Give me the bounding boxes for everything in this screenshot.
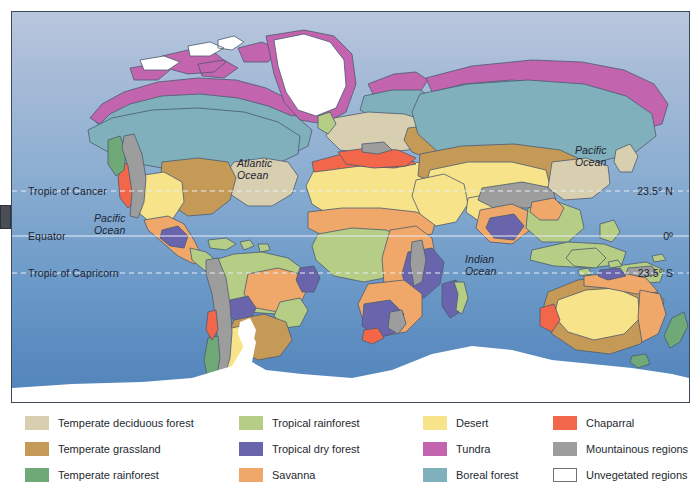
legend-item-tropical-dry-forest[interactable]: Tropical dry forest xyxy=(239,442,360,456)
legend-swatch-boreal-forest xyxy=(423,468,447,482)
legend-item-chaparral[interactable]: Chaparral xyxy=(553,416,634,430)
legend-label-temperate-deciduous-forest: Temperate deciduous forest xyxy=(58,417,194,429)
legend-swatch-temperate-deciduous-forest xyxy=(25,416,49,430)
latitude-label-equator: Equator xyxy=(28,230,65,242)
caribbean-islands xyxy=(208,238,270,252)
region-asia xyxy=(412,60,668,284)
legend-item-mountainous-regions[interactable]: Mountainous regions xyxy=(553,442,688,456)
ocean-label-atlantic: Atlantic Ocean xyxy=(237,157,272,181)
legend-swatch-tropical-rainforest xyxy=(239,416,263,430)
biome-map-page: Atlantic Ocean Pacific Ocean Pacific Oce… xyxy=(0,0,699,492)
chaparral-chile xyxy=(206,310,218,340)
legend-item-desert[interactable]: Desert xyxy=(423,416,488,430)
legend-label-savanna: Savanna xyxy=(272,469,315,481)
ocean-label-pacific-west: Pacific Ocean xyxy=(575,144,607,168)
legend-swatch-unvegetated-regions xyxy=(553,468,577,482)
legend-swatch-desert xyxy=(423,416,447,430)
legend-label-mountainous-regions: Mountainous regions xyxy=(586,443,688,455)
legend-swatch-temperate-grassland xyxy=(25,442,49,456)
legend-swatch-mountainous-regions xyxy=(553,442,577,456)
legend-label-temperate-grassland: Temperate grassland xyxy=(58,443,161,455)
world-biomes-map: Atlantic Ocean Pacific Ocean Pacific Oce… xyxy=(11,11,690,403)
ocean-label-indian: Indian Ocean xyxy=(465,253,496,277)
latitude-value-0: 0º xyxy=(589,230,673,242)
legend-swatch-tropical-dry-forest xyxy=(239,442,263,456)
legend-swatch-temperate-rainforest xyxy=(25,468,49,482)
legend-label-tropical-dry-forest: Tropical dry forest xyxy=(272,443,360,455)
temperate-rainforest-nz xyxy=(664,312,688,348)
temperate-rainforest-tasmania xyxy=(630,354,650,368)
legend-label-tropical-rainforest: Tropical rainforest xyxy=(272,417,360,429)
legend-item-savanna[interactable]: Savanna xyxy=(239,468,315,482)
legend-item-temperate-deciduous-forest[interactable]: Temperate deciduous forest xyxy=(25,416,194,430)
latitude-label-tropic-of-capricorn: Tropic of Capricorn xyxy=(28,267,119,279)
ocean-label-pacific-east: Pacific Ocean xyxy=(94,212,126,236)
latitude-value-23-5-n: 23.5° N xyxy=(589,185,673,197)
legend-item-tundra[interactable]: Tundra xyxy=(423,442,490,456)
legend-label-temperate-rainforest: Temperate rainforest xyxy=(58,469,159,481)
legend-item-unvegetated-regions[interactable]: Unvegetated regions xyxy=(553,468,688,482)
map-legend: Temperate deciduous forest Temperate gra… xyxy=(11,408,688,488)
latitude-value-23-5-s: 23.5° S xyxy=(589,267,673,279)
legend-item-tropical-rainforest[interactable]: Tropical rainforest xyxy=(239,416,360,430)
legend-item-temperate-grassland[interactable]: Temperate grassland xyxy=(25,442,161,456)
page-edge-artifact xyxy=(0,205,11,229)
legend-item-temperate-rainforest[interactable]: Temperate rainforest xyxy=(25,468,159,482)
legend-swatch-savanna xyxy=(239,468,263,482)
legend-item-boreal-forest[interactable]: Boreal forest xyxy=(423,468,518,482)
legend-label-tundra: Tundra xyxy=(456,443,490,455)
legend-label-unvegetated-regions: Unvegetated regions xyxy=(586,469,688,481)
latitude-label-tropic-of-cancer: Tropic of Cancer xyxy=(28,185,107,197)
legend-label-desert: Desert xyxy=(456,417,488,429)
legend-swatch-tundra xyxy=(423,442,447,456)
legend-label-boreal-forest: Boreal forest xyxy=(456,469,518,481)
map-graphic xyxy=(12,12,689,402)
legend-label-chaparral: Chaparral xyxy=(586,417,634,429)
legend-swatch-chaparral xyxy=(553,416,577,430)
